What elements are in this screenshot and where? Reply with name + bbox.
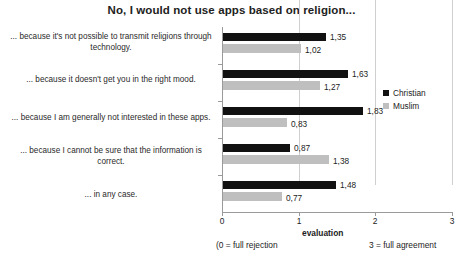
bar-value-christian-4: 1,48 bbox=[340, 180, 356, 190]
bar-christian-4 bbox=[223, 181, 336, 189]
bar-muslim-4 bbox=[223, 192, 282, 201]
annotation-left: (0 = full rejection bbox=[216, 240, 278, 250]
chart-legend: Christian Muslim bbox=[383, 86, 426, 112]
x-axis-line bbox=[222, 212, 453, 213]
y-axis-tick-3 bbox=[218, 175, 222, 176]
bar-muslim-2 bbox=[223, 118, 287, 127]
category-label-4: ... in any case. bbox=[6, 190, 216, 201]
bar-value-christian-1: 1,63 bbox=[352, 69, 368, 79]
bar-christian-3 bbox=[223, 144, 290, 152]
y-axis-tick-0 bbox=[218, 64, 222, 65]
y-axis-tick-2 bbox=[218, 138, 222, 139]
x-tick-label-1: 1 bbox=[289, 216, 309, 226]
chart-title: No, I would not use apps based on religi… bbox=[0, 4, 463, 16]
category-label-2: ... because I am generally not intereste… bbox=[6, 113, 216, 124]
category-label-1: ... because it doesn't get you in the ri… bbox=[6, 75, 216, 86]
bar-value-christian-0: 1,35 bbox=[330, 32, 346, 42]
bar-value-muslim-3: 1,38 bbox=[333, 156, 349, 166]
y-axis-tick-1 bbox=[218, 101, 222, 102]
x-axis-title: evaluation bbox=[302, 228, 343, 238]
bar-muslim-0 bbox=[223, 44, 301, 53]
bar-value-muslim-0: 1,02 bbox=[305, 45, 321, 55]
bar-muslim-3 bbox=[223, 155, 329, 164]
bar-value-christian-2: 1,83 bbox=[367, 106, 383, 116]
x-tick-label-2: 2 bbox=[365, 216, 385, 226]
legend-label-christian: Christian bbox=[393, 88, 426, 98]
bar-christian-0 bbox=[223, 33, 326, 41]
bar-value-muslim-4: 0,77 bbox=[286, 193, 302, 203]
category-label-3: ... because I cannot be sure that the in… bbox=[6, 146, 216, 167]
legend-swatch-christian-icon bbox=[383, 90, 389, 96]
bar-value-muslim-1: 1,27 bbox=[324, 82, 340, 92]
bar-christian-1 bbox=[223, 70, 348, 78]
x-tick-label-3: 3 bbox=[442, 216, 462, 226]
bar-muslim-1 bbox=[223, 81, 320, 90]
legend-item-muslim[interactable]: Muslim bbox=[383, 99, 426, 112]
legend-label-muslim: Muslim bbox=[393, 101, 419, 111]
legend-swatch-muslim-icon bbox=[383, 103, 389, 109]
x-tick-label-0: 0 bbox=[212, 216, 232, 226]
gridline-2 bbox=[375, 0, 376, 185]
annotation-right: 3 = full agreement bbox=[369, 240, 436, 250]
legend-item-christian[interactable]: Christian bbox=[383, 86, 426, 99]
bar-value-christian-3: 0,87 bbox=[294, 143, 310, 153]
bar-christian-2 bbox=[223, 107, 363, 115]
gridline-3 bbox=[452, 0, 453, 185]
bar-chart: No, I would not use apps based on religi… bbox=[0, 0, 463, 260]
bar-value-muslim-2: 0,83 bbox=[291, 119, 307, 129]
category-label-0: ... because it's not possible to transmi… bbox=[6, 32, 216, 53]
